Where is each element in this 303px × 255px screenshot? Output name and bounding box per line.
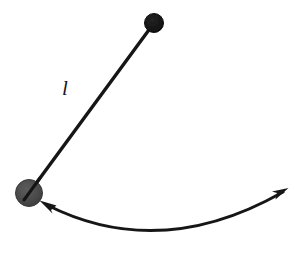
pendulum-figure: l	[0, 0, 303, 255]
pendulum-canvas	[0, 0, 303, 255]
swing-arc	[40, 188, 289, 231]
arc-arrowhead-left	[40, 201, 57, 214]
pivot-point	[145, 14, 164, 33]
length-label-l: l	[62, 78, 68, 99]
pendulum-rod	[29, 23, 154, 193]
